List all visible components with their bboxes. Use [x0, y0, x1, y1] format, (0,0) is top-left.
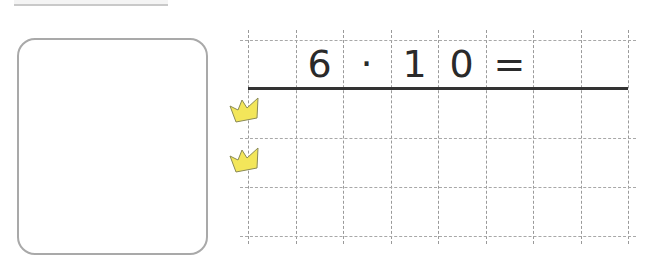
equation-cell: 0 — [438, 40, 485, 88]
answer-cell[interactable] — [581, 40, 628, 88]
grid-hline — [240, 187, 636, 188]
grid-hline — [240, 236, 636, 237]
equation-cell: = — [486, 40, 533, 88]
equation-cell: 6 — [296, 40, 343, 88]
grid-vline — [628, 30, 629, 244]
crown-icon — [228, 146, 262, 174]
grid-hline — [240, 138, 636, 139]
equation-cell: 1 — [391, 40, 438, 88]
math-grid: 6 · 1 0 = — [0, 0, 659, 268]
answer-cell[interactable] — [533, 40, 580, 88]
equation-cell — [248, 40, 295, 88]
equation-cell: · — [343, 40, 390, 88]
crown-icon — [228, 96, 262, 124]
